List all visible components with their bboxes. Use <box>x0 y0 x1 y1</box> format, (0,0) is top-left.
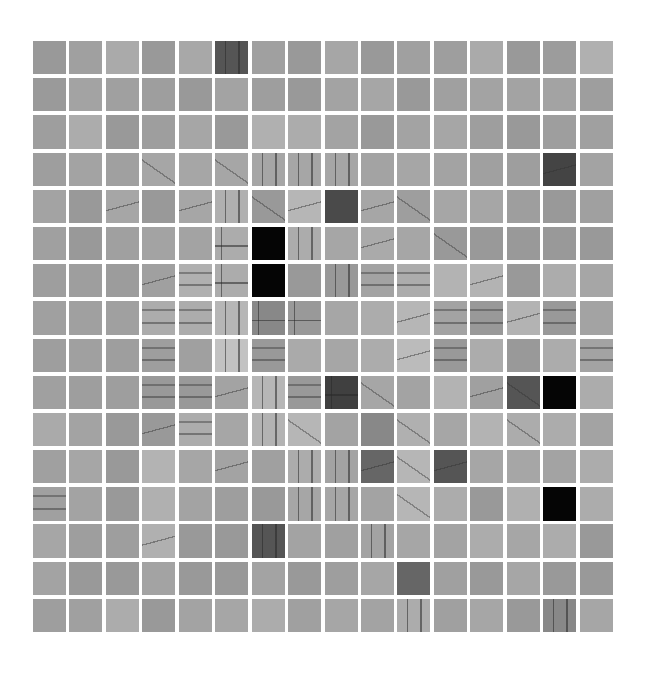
image-tile <box>325 78 358 111</box>
image-tile <box>397 413 430 446</box>
image-tile <box>69 376 102 409</box>
image-tile <box>215 153 248 186</box>
image-tile <box>434 153 467 186</box>
image-tile <box>470 599 503 632</box>
image-tile <box>252 487 285 520</box>
image-tile <box>397 190 430 223</box>
image-tile <box>288 450 321 483</box>
image-tile <box>215 301 248 334</box>
image-tile <box>543 339 576 372</box>
image-tile <box>215 190 248 223</box>
image-tile <box>470 227 503 260</box>
image-tile <box>434 562 467 595</box>
image-tile <box>434 41 467 74</box>
image-tile <box>288 264 321 297</box>
image-tile <box>106 153 139 186</box>
image-tile <box>288 115 321 148</box>
image-tile <box>397 264 430 297</box>
image-tile <box>142 599 175 632</box>
image-tile <box>434 450 467 483</box>
image-tile <box>470 524 503 557</box>
image-tile <box>106 562 139 595</box>
image-tile <box>325 562 358 595</box>
image-tile <box>325 190 358 223</box>
image-tile <box>580 115 613 148</box>
image-tile <box>361 190 394 223</box>
image-tile <box>361 562 394 595</box>
image-tile-grid <box>33 41 615 637</box>
image-tile <box>325 413 358 446</box>
image-tile <box>179 376 212 409</box>
image-tile <box>33 264 66 297</box>
image-tile <box>142 264 175 297</box>
image-tile <box>325 524 358 557</box>
image-tile <box>142 190 175 223</box>
image-tile <box>142 153 175 186</box>
image-tile <box>179 264 212 297</box>
image-tile <box>507 115 540 148</box>
image-tile <box>69 301 102 334</box>
image-tile <box>288 190 321 223</box>
image-tile <box>397 153 430 186</box>
image-tile <box>33 115 66 148</box>
image-tile <box>543 524 576 557</box>
image-tile <box>142 376 175 409</box>
image-tile <box>69 41 102 74</box>
image-tile <box>543 301 576 334</box>
image-tile <box>361 153 394 186</box>
image-tile <box>580 562 613 595</box>
image-tile <box>142 227 175 260</box>
image-tile <box>252 227 285 260</box>
image-tile <box>69 153 102 186</box>
image-tile <box>33 78 66 111</box>
image-tile <box>580 78 613 111</box>
image-tile <box>580 301 613 334</box>
image-tile <box>215 227 248 260</box>
image-tile <box>252 413 285 446</box>
image-tile <box>106 264 139 297</box>
image-tile <box>142 413 175 446</box>
image-tile <box>507 227 540 260</box>
image-tile <box>434 264 467 297</box>
image-tile <box>33 227 66 260</box>
image-tile <box>179 301 212 334</box>
image-tile <box>179 599 212 632</box>
image-tile <box>252 524 285 557</box>
image-tile <box>543 153 576 186</box>
image-tile <box>434 301 467 334</box>
image-tile <box>33 562 66 595</box>
image-tile <box>288 376 321 409</box>
image-tile <box>252 115 285 148</box>
image-tile <box>69 524 102 557</box>
image-tile <box>397 599 430 632</box>
image-tile <box>106 524 139 557</box>
image-tile <box>288 524 321 557</box>
image-tile <box>361 524 394 557</box>
image-tile <box>33 413 66 446</box>
image-tile <box>325 339 358 372</box>
image-tile <box>361 115 394 148</box>
image-tile <box>507 376 540 409</box>
image-tile <box>142 562 175 595</box>
image-tile <box>106 301 139 334</box>
image-tile <box>106 115 139 148</box>
image-tile <box>252 153 285 186</box>
image-tile <box>179 562 212 595</box>
image-tile <box>361 41 394 74</box>
image-tile <box>470 487 503 520</box>
image-tile <box>470 450 503 483</box>
image-tile <box>543 78 576 111</box>
image-tile <box>215 339 248 372</box>
image-tile <box>397 301 430 334</box>
image-tile <box>397 524 430 557</box>
image-tile <box>252 190 285 223</box>
image-tile <box>288 227 321 260</box>
image-tile <box>33 41 66 74</box>
image-tile <box>325 599 358 632</box>
image-tile <box>325 376 358 409</box>
image-tile <box>580 153 613 186</box>
image-tile <box>215 115 248 148</box>
image-tile <box>69 190 102 223</box>
image-tile <box>507 562 540 595</box>
image-tile <box>69 227 102 260</box>
